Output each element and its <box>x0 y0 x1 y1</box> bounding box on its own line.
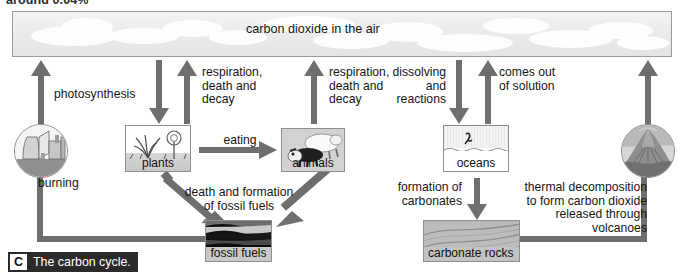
store-label-fossil-fuels: fossil fuels <box>206 246 271 260</box>
arrow-volcano-up <box>637 60 659 124</box>
store-box-carbonate-rocks: carbonate rocks <box>423 220 520 262</box>
store-label-oceans: oceans <box>444 156 508 170</box>
arrow-comes-out-of-solution-up <box>477 60 499 124</box>
store-label-carbonate-rocks: carbonate rocks <box>424 246 519 260</box>
cloud-icon <box>417 34 513 52</box>
label-dissolving-and-reactions: dissolving and reactions <box>388 66 446 107</box>
store-box-oceans: oceans <box>443 125 509 172</box>
label-burning: burning <box>38 177 79 191</box>
label-eating: eating <box>216 134 264 148</box>
carbon-cycle-figure: around 0.04% carbon dioxide in the air <box>0 0 680 279</box>
label-photosynthesis: photosynthesis <box>54 88 135 102</box>
label-respiration-animals: respiration, death and decay <box>329 66 389 107</box>
atmosphere-label: carbon dioxide in the air <box>246 22 380 36</box>
cloud-icon <box>617 36 669 50</box>
power-station-icon <box>14 124 68 178</box>
arrow-respiration-plants-up <box>176 60 198 124</box>
caption-letter: C <box>10 254 27 270</box>
connector-volcano-horizontal <box>515 236 647 242</box>
arrow-dissolving-down <box>448 60 470 124</box>
cloud-icon <box>483 18 549 34</box>
volcano-icon <box>621 124 675 178</box>
arrow-respiration-animals-up <box>303 60 325 124</box>
label-comes-out-of-solution: comes out of solution <box>499 66 555 93</box>
arrow-burning-up <box>30 60 52 124</box>
label-formation-of-carbonates: formation of carbonates <box>376 181 462 208</box>
label-death-and-formation-of-fossil-fuels: death and formation of fossil fuels <box>179 186 299 213</box>
caption-text: The carbon cycle. <box>33 252 131 272</box>
label-respiration-plants: respiration, death and decay <box>202 66 262 107</box>
store-box-fossil-fuels: fossil fuels <box>205 220 272 262</box>
cloud-icon <box>61 18 113 36</box>
store-label-plants: plants <box>126 156 190 170</box>
store-box-animals: animals <box>281 128 345 172</box>
store-label-animals: animals <box>282 156 344 170</box>
connector-burning-horizontal <box>37 236 209 242</box>
arrow-photosynthesis-down <box>148 60 170 124</box>
clipped-heading: around 0.04% <box>6 0 186 7</box>
store-box-plants: plants <box>125 125 191 172</box>
arrow-formation-of-carbonates-down <box>466 178 488 220</box>
figure-caption: C The carbon cycle. <box>8 252 138 272</box>
